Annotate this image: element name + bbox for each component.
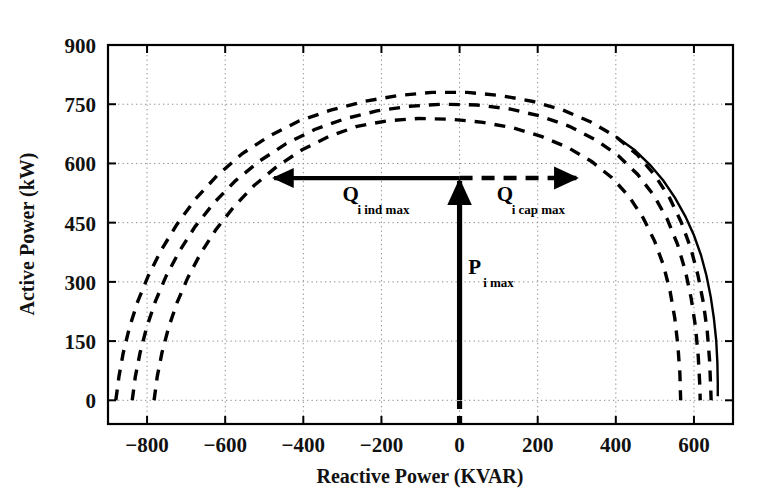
y-tick-label: 450	[65, 212, 97, 236]
figure-container: −800−600−400−2000200400600 0150300450600…	[0, 0, 776, 497]
x-tick-label: 0	[454, 433, 465, 457]
annotation-symbol: Q	[497, 182, 513, 206]
x-tick-label: 200	[522, 433, 554, 457]
y-tick-label: 150	[65, 330, 97, 354]
y-tick-label: 900	[65, 34, 97, 58]
x-tick-label: 400	[600, 433, 632, 457]
y-tick-label: 300	[65, 271, 97, 295]
x-axis-title: Reactive Power (KVAR)	[317, 465, 524, 488]
x-tick-label: −600	[203, 433, 246, 457]
y-tick-label: 0	[86, 389, 97, 413]
y-tick-label: 750	[65, 93, 97, 117]
annotation-subscript: i max	[483, 275, 514, 290]
annotation-subscript: i cap max	[512, 202, 566, 217]
x-tick-label: −400	[282, 433, 325, 457]
capability-curve-chart: −800−600−400−2000200400600 0150300450600…	[0, 0, 776, 497]
y-tick-label: 600	[65, 152, 97, 176]
x-tick-label: −800	[125, 433, 168, 457]
annotation-symbol: Q	[342, 182, 358, 206]
x-tick-label: −200	[360, 433, 403, 457]
x-tick-label: 600	[678, 433, 710, 457]
annotation-subscript: i ind max	[357, 202, 410, 217]
annotation-symbol: P	[468, 255, 481, 279]
chart-background	[0, 0, 776, 497]
y-axis-title: Active Power (kW)	[16, 153, 39, 316]
